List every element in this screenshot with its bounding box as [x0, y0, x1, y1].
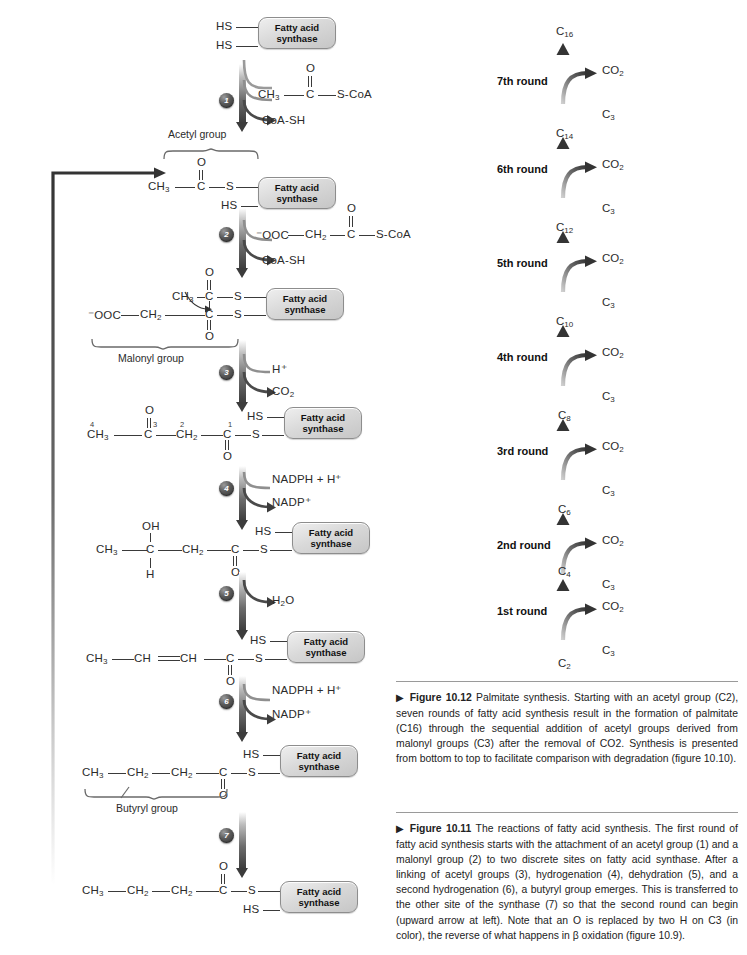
step-number-3: 3 [224, 369, 228, 377]
label-o-acetylcoa: O [306, 62, 315, 74]
label-c-butyryl: C [219, 766, 228, 778]
c3-label-round-3: C3 [602, 484, 615, 498]
bond-s-box-acetoacetyl [262, 435, 284, 436]
label-hs-enoyl: HS [250, 634, 266, 646]
step-circle-1: 1 [219, 93, 234, 108]
label-hs-hydroxy: HS [255, 525, 271, 537]
label-c3-acetoacetyl: C [144, 428, 153, 440]
label-ch2-b-transferred: CH2 [171, 884, 193, 898]
structure-acetyl-synthase: O CH3 C S HS Fatty acid synthase [136, 158, 336, 208]
label-ch3-acetoacetyl: CH3 [87, 428, 109, 442]
label-hs-bottom: HS [216, 39, 232, 51]
round-arrow-5 [552, 230, 612, 306]
bond-c-ch2-hydroxy [158, 550, 182, 551]
label-ch3-acetylcoa: CH3 [258, 88, 280, 102]
label-c-acetyl: C [197, 180, 206, 192]
step-circle-4: 4 [219, 481, 234, 496]
brace-label-malonyl-group: Malonyl group [118, 352, 184, 364]
label-s-acetoacetyl: S [252, 428, 260, 440]
bond-hs-box-hydroxy [275, 532, 292, 533]
product-6-nadp: NADP⁺ [272, 707, 311, 721]
bond-ch3-ch2a-transferred [108, 891, 126, 892]
bond-ch2a-ch2b-butyryl [152, 773, 170, 774]
round-label-6: 6th round [497, 163, 548, 175]
bond-stop-box [244, 297, 266, 298]
co2-label-round-1: CO2 [602, 600, 624, 614]
bond-ch3-c [284, 95, 304, 96]
bond-hs-top [236, 27, 258, 28]
substrate-2-malonyl-coa: O ⁻OOC CH2 C S-CoA [256, 218, 436, 248]
label-ch3-acetyl: CH3 [148, 180, 170, 194]
bond-c-s-enoyl [238, 659, 254, 660]
fatty-acid-synthase-box-2: Fatty acid synthase [258, 177, 336, 209]
label-c-acetylcoa: C [306, 88, 315, 100]
bond-c-h-hydroxy [150, 558, 151, 568]
bond-c1-s-acetoacetyl [235, 435, 251, 436]
bond-s-box-hydroxy [270, 550, 292, 551]
co2-label-round-7: CO2 [602, 64, 624, 78]
label-hs-transferred: HS [243, 903, 259, 915]
bond-ooc-ch2 [288, 235, 304, 236]
fatty-acid-synthase-box-8: Fatty acid synthase [280, 881, 358, 913]
round-arrow-4 [552, 324, 612, 400]
substrate-1-acetyl-coa: O CH3 C S-CoA [258, 78, 428, 108]
round-arrow-1 [552, 578, 612, 654]
fas6-line1: Fatty acid [304, 636, 348, 647]
step-circle-7: 7 [219, 828, 234, 843]
caption-figure-10-12: ▶ Figure 10.12 Palmitate synthesis. Star… [396, 690, 738, 766]
bond-c-s-transferred [231, 891, 247, 892]
label-o-down-acetoacetyl: O [223, 450, 232, 462]
substrate-4-nadph: NADPH + H⁺ [272, 472, 342, 486]
fas3-line2: synthase [284, 304, 325, 315]
fatty-acid-synthase-box-4: Fatty acid synthase [284, 407, 362, 439]
bond-ch3-c-acetyl [175, 187, 195, 188]
hook-substrate-3 [240, 352, 274, 404]
bond-ch2-c-malonylcoa [330, 235, 345, 236]
bond-c-scoa [318, 95, 336, 96]
label-c-transferred: C [219, 884, 228, 896]
c16-sub: 16 [564, 30, 573, 39]
caption-title-1012: Figure 10.12 [410, 692, 472, 703]
label-s-bottom-malonyl: S [234, 308, 242, 320]
double-bond-o-up-acetoacetyl [147, 418, 152, 428]
label-oh-hydroxy: OH [142, 520, 160, 532]
label-o-transferred: O [219, 860, 228, 872]
fatty-acid-synthase-box-6: Fatty acid synthase [287, 631, 365, 663]
label-ch-b-enoyl: CH [180, 652, 197, 664]
bond-s-box-enoyl [265, 659, 287, 660]
fatty-acid-synthase-box-3: Fatty acid synthase [266, 288, 344, 320]
double-bond-ch-ch-enoyl [158, 656, 180, 662]
bond-ch3-c3 [114, 435, 142, 436]
bond-sbot-box [244, 315, 266, 316]
caption-text-1011: The reactions of fatty acid synthesis. T… [396, 823, 738, 941]
double-bond-top-malonyl [207, 280, 212, 290]
double-bond-o-malonylcoa [349, 216, 354, 227]
step-number-7: 7 [224, 832, 228, 840]
structure-butyryl-transferred: O CH3 CH2 CH2 C S HS Fatty acid synthase [82, 862, 352, 914]
label-ch3-enoyl: CH3 [86, 652, 108, 666]
label-c-hydroxy: C [146, 543, 155, 555]
step-circle-5: 5 [219, 586, 234, 601]
label-ch3-hydroxy: CH3 [96, 543, 118, 557]
label-s-hydroxy: S [260, 543, 268, 555]
label-s-enoyl: S [255, 652, 263, 664]
round-label-3: 3rd round [497, 445, 548, 457]
structure-free-synthase: HS HS Fatty acid synthase [216, 16, 336, 62]
co2-label-round-3: CO2 [602, 440, 624, 454]
round-label-2: 2nd round [497, 539, 551, 551]
step-circle-2: 2 [219, 227, 234, 242]
bond-c-s-acetyl [209, 187, 225, 188]
co2-label-round-5: CO2 [602, 252, 624, 266]
fas2-line1: Fatty acid [275, 182, 319, 193]
structure-acetoacetyl-synthase: O 4 CH3 3 C 2 CH2 1 C S O HS Fatty acid … [82, 406, 342, 468]
bond-s-box-butyryl [258, 773, 280, 774]
caption-figure-10-11: ▶ Figure 10.11 The reactions of fatty ac… [396, 821, 738, 943]
label-o-top-malonyl: O [205, 266, 214, 278]
label-ch2-hydroxy: CH2 [182, 543, 204, 557]
hook-product-5 [240, 578, 274, 620]
double-bond-o-acetylcoa [308, 76, 313, 87]
bond-hs-box-butyryl [263, 755, 280, 756]
label-ch2-a-butyryl: CH2 [127, 766, 149, 780]
c2-sub: 2 [566, 662, 570, 671]
step-circle-6: 6 [219, 694, 234, 709]
